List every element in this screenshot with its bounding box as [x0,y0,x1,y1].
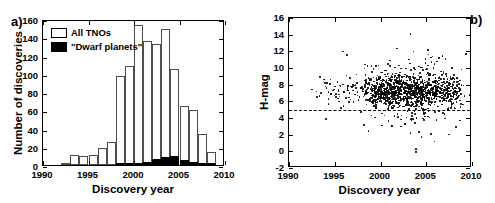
scatter-point [431,61,433,63]
scatter-point [431,101,433,103]
x-tick-top [43,21,44,25]
y-tick-label: 10 [258,62,284,73]
scatter-point [430,133,432,135]
x-tick [472,162,473,166]
scatter-point [430,88,432,90]
y-tick [289,101,293,102]
scatter-point [436,98,438,100]
y-tick-right [466,85,470,86]
scatter-point [418,90,420,92]
x-tick-label: 2000 [122,169,143,180]
y-tick [43,76,47,77]
scatter-point [328,103,330,105]
scatter-point [329,83,331,85]
y-tick-label: 20 [12,142,38,153]
scatter-point [409,80,411,82]
scatter-point [429,85,431,87]
histogram-bar [189,110,198,165]
scatter-point [346,54,348,56]
x-tick [134,161,135,165]
scatter-point [373,77,375,79]
scatter-point [365,74,367,76]
scatter-point [357,91,359,93]
histogram-bar-dwarf [152,159,161,165]
y-tick-label: 100 [12,69,38,80]
panel-b-plot-area [288,17,471,167]
scatter-point [422,94,424,96]
scatter-point [429,73,431,75]
scatter-point [416,104,418,106]
y-tick [289,35,293,36]
scatter-point [334,86,336,88]
scatter-point [413,118,415,120]
y-tick-label: 8 [258,78,284,89]
scatter-point [418,131,420,133]
panel-b-scatter: b) H-mag Discovery year -202468101214161… [248,0,495,203]
scatter-point [328,98,330,100]
scatter-point [398,74,400,76]
histogram-bar [143,41,152,165]
scatter-point [374,95,376,97]
scatter-point [375,65,377,67]
scatter-point [435,94,437,96]
y-tick-right [219,21,223,22]
scatter-point [433,74,435,76]
scatter-point [373,68,375,70]
y-tick-label: 160 [12,15,38,26]
histogram-bar [161,29,170,165]
x-tick-label: 2005 [168,169,189,180]
scatter-point [338,89,340,91]
scatter-point [409,63,411,65]
scatter-point [419,72,421,74]
scatter-point [326,87,328,89]
scatter-point [409,85,411,87]
scatter-point [422,103,424,105]
scatter-point [389,65,391,67]
scatter-point [444,118,446,120]
scatter-point [399,80,401,82]
scatter-point [375,93,377,95]
y-tick-label: 60 [12,106,38,117]
scatter-point [374,117,376,119]
scatter-point [414,93,416,95]
scatter-point [420,76,422,78]
x-tick-label: 1990 [31,169,52,180]
scatter-point [419,93,421,95]
scatter-point [430,84,432,86]
scatter-point [381,86,383,88]
y-tick-right [466,101,470,102]
scatter-point [423,87,425,89]
histogram-bar [170,69,179,165]
scatter-point [367,65,369,67]
scatter-point [378,65,380,67]
scatter-point [439,91,441,93]
scatter-point [349,92,351,94]
scatter-point [448,100,450,102]
y-tick [289,51,293,52]
scatter-point [374,86,376,88]
panel-a-histogram: a) Number of discoveries Discovery year … [0,0,248,203]
y-tick-label: 16 [258,12,284,23]
scatter-point [381,113,383,115]
scatter-point [428,78,430,80]
scatter-point [350,99,352,101]
scatter-point [434,104,436,106]
scatter-point [428,54,430,56]
scatter-point [450,107,452,109]
y-tick-right [219,167,223,168]
scatter-point [404,83,406,85]
scatter-point [437,86,439,88]
scatter-point [365,79,367,81]
histogram-bar-dwarf [170,156,179,165]
scatter-point [397,116,399,118]
histogram-bar [180,106,189,165]
y-tick-right [219,58,223,59]
scatter-point [395,73,397,75]
scatter-point [365,91,367,93]
scatter-point [448,88,450,90]
scatter-point [367,87,369,89]
x-tick-top [381,18,382,22]
y-tick [43,39,47,40]
scatter-point [453,102,455,104]
scatter-point [420,67,422,69]
